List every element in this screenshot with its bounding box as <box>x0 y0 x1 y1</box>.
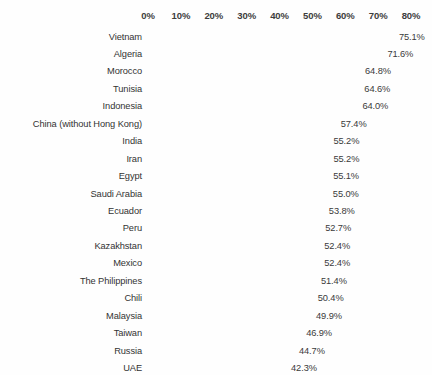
category-label: Iran <box>14 154 142 165</box>
bar-row: UAE42.3% <box>0 363 432 375</box>
bar-row: The Philippines51.4% <box>0 276 432 294</box>
bar-row: India55.2% <box>0 136 432 154</box>
bar-track <box>148 206 325 217</box>
bar-row: Indonesia64.0% <box>0 101 432 119</box>
category-label: Taiwan <box>14 328 142 339</box>
bar-track <box>148 49 383 60</box>
category-label: Ecuador <box>14 206 142 217</box>
bar-track <box>148 119 337 130</box>
bar-track <box>148 258 320 269</box>
bar-track <box>148 293 314 304</box>
bar-value-label: 75.1% <box>399 32 425 43</box>
bar-value-label: 51.4% <box>321 276 347 287</box>
bar-track <box>148 171 329 182</box>
bar-value-label: 50.4% <box>318 293 344 304</box>
bar-value-label: 52.4% <box>324 258 350 269</box>
bar-row: Peru52.7% <box>0 223 432 241</box>
category-label: Tunisia <box>14 84 142 95</box>
category-label: Algeria <box>14 49 142 60</box>
category-label: Vietnam <box>14 32 142 43</box>
bar-track <box>148 101 358 112</box>
category-label: The Philippines <box>14 276 142 287</box>
bar-track <box>148 311 312 322</box>
category-label: Kazakhstan <box>14 241 142 252</box>
bar-row: Iran55.2% <box>0 154 432 172</box>
bar-row: Morocco64.8% <box>0 66 432 84</box>
category-label: Indonesia <box>14 101 142 112</box>
bar-value-label: 55.2% <box>333 136 359 147</box>
bar-value-label: 53.8% <box>329 206 355 217</box>
bar-row: Malaysia49.9% <box>0 311 432 329</box>
category-label: Peru <box>14 223 142 234</box>
category-label: Malaysia <box>14 311 142 322</box>
bar-value-label: 52.7% <box>325 223 351 234</box>
bar-value-label: 46.9% <box>306 328 332 339</box>
category-label: Chili <box>14 293 142 304</box>
category-label: Morocco <box>14 66 142 77</box>
bar-track <box>148 136 329 147</box>
bar-track <box>148 32 395 43</box>
bar-row: Russia44.7% <box>0 346 432 364</box>
bar-track <box>148 154 329 165</box>
category-label: China (without Hong Kong) <box>14 119 142 130</box>
category-label: Egypt <box>14 171 142 182</box>
bar-value-label: 55.0% <box>333 189 359 200</box>
bar-value-label: 55.1% <box>333 171 359 182</box>
bar-track <box>148 363 287 374</box>
category-label: Saudi Arabia <box>14 189 142 200</box>
bar-row: China (without Hong Kong)57.4% <box>0 119 432 137</box>
bar-track <box>148 276 317 287</box>
bar-chart: 0%10%20%30%40%50%60%70%80% Vietnam75.1%A… <box>0 0 432 375</box>
plot-area: Vietnam75.1%Algeria71.6%Morocco64.8%Tuni… <box>0 0 432 375</box>
bar-row: Algeria71.6% <box>0 49 432 67</box>
bar-track <box>148 66 361 77</box>
bar-row: Egypt55.1% <box>0 171 432 189</box>
bar-track <box>148 189 329 200</box>
bar-track <box>148 328 302 339</box>
bar-track <box>148 346 295 357</box>
bar-value-label: 44.7% <box>299 346 325 357</box>
bar-row: Kazakhstan52.4% <box>0 241 432 259</box>
bar-track <box>148 84 360 95</box>
bar-row: Mexico52.4% <box>0 258 432 276</box>
bar-value-label: 57.4% <box>341 119 367 130</box>
category-label: Russia <box>14 346 142 357</box>
bar-value-label: 42.3% <box>291 363 317 374</box>
bar-row: Ecuador53.8% <box>0 206 432 224</box>
bar-value-label: 55.2% <box>333 154 359 165</box>
category-label: Mexico <box>14 258 142 269</box>
bar-value-label: 71.6% <box>387 49 413 60</box>
bar-track <box>148 241 320 252</box>
bar-track <box>148 223 321 234</box>
bar-value-label: 52.4% <box>324 241 350 252</box>
bar-value-label: 64.8% <box>365 66 391 77</box>
category-label: India <box>14 136 142 147</box>
bar-row: Taiwan46.9% <box>0 328 432 346</box>
bar-row: Saudi Arabia55.0% <box>0 189 432 207</box>
bar-row: Vietnam75.1% <box>0 32 432 50</box>
bar-value-label: 64.6% <box>364 84 390 95</box>
bar-value-label: 64.0% <box>362 101 388 112</box>
category-label: UAE <box>14 363 142 374</box>
bar-value-label: 49.9% <box>316 311 342 322</box>
bar-row: Chili50.4% <box>0 293 432 311</box>
bar-row: Tunisia64.6% <box>0 84 432 102</box>
